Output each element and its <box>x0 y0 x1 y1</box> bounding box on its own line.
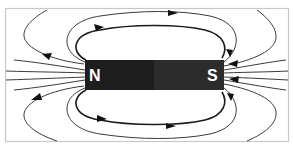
south-pole-label: S <box>207 67 218 84</box>
bar-magnet: N S <box>85 60 224 90</box>
magnet-field-diagram: N S <box>0 0 293 150</box>
north-pole-label: N <box>89 67 101 84</box>
